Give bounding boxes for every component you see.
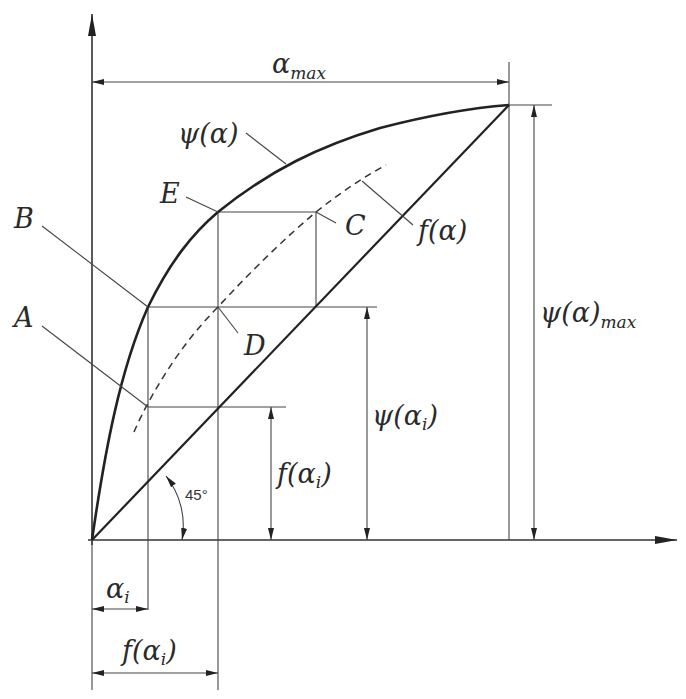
point-label-B: B	[13, 203, 34, 234]
point-label-E: E	[159, 178, 180, 209]
f-alpha-i-horizontal-label: f(αi)	[120, 635, 177, 669]
construction-lines	[148, 212, 377, 407]
angle-arc	[166, 476, 183, 540]
psi-alpha-i-label: ψ(αi)	[372, 400, 438, 434]
f-alpha-i-vertical-label: f(αi)	[275, 458, 332, 492]
alpha-max-label: αmax	[272, 48, 326, 83]
extension-lines	[92, 62, 552, 690]
psi-max-label: ψ(α)max	[540, 297, 637, 332]
leader-lines	[42, 133, 413, 407]
alpha-i-label: αi	[106, 573, 130, 607]
f-curve-label: f(α)	[416, 215, 467, 246]
dimension-lines	[92, 82, 534, 673]
angle-label: 45°	[185, 486, 208, 503]
axes	[88, 14, 677, 545]
psi-f-construction-diagram: 45° αmax ψ(α) f(α) E C B A D ψ(α)max ψ(α…	[0, 0, 686, 699]
psi-curve-label: ψ(α)	[178, 118, 238, 149]
point-label-D: D	[243, 330, 266, 361]
point-label-C: C	[345, 210, 366, 241]
point-label-A: A	[11, 302, 34, 333]
